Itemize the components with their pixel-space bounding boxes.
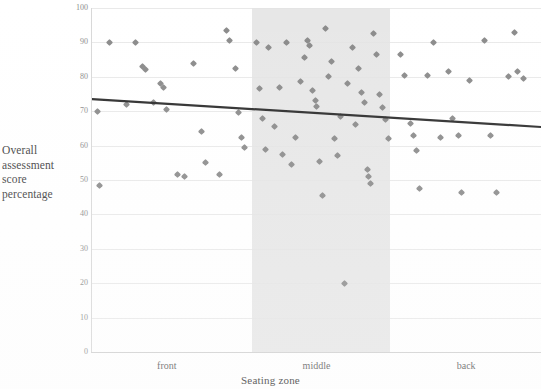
trend-line-segment — [92, 99, 541, 127]
y-axis-ticks: 0102030405060708090100 — [62, 0, 88, 389]
y-tick-label: 30 — [62, 245, 88, 253]
x-tick-label: middle — [303, 360, 331, 371]
x-tick-label: front — [157, 360, 176, 371]
x-axis-line — [91, 352, 541, 353]
trend-line — [92, 8, 541, 352]
x-tick-label: back — [457, 360, 476, 371]
y-tick-label: 60 — [62, 142, 88, 150]
y-tick-label: 70 — [62, 107, 88, 115]
y-tick-label: 20 — [62, 279, 88, 287]
y-tick-label: 0 — [62, 348, 88, 356]
plot-area — [92, 8, 541, 352]
y-tick-label: 50 — [62, 176, 88, 184]
y-tick-label: 40 — [62, 210, 88, 218]
x-axis-title: Seating zone — [0, 374, 541, 386]
scatter-chart: Overall assessment score percentage 0102… — [0, 0, 541, 389]
y-tick-label: 80 — [62, 73, 88, 81]
y-tick-label: 90 — [62, 38, 88, 46]
y-tick-label: 100 — [62, 4, 88, 12]
y-tick-label: 10 — [62, 314, 88, 322]
